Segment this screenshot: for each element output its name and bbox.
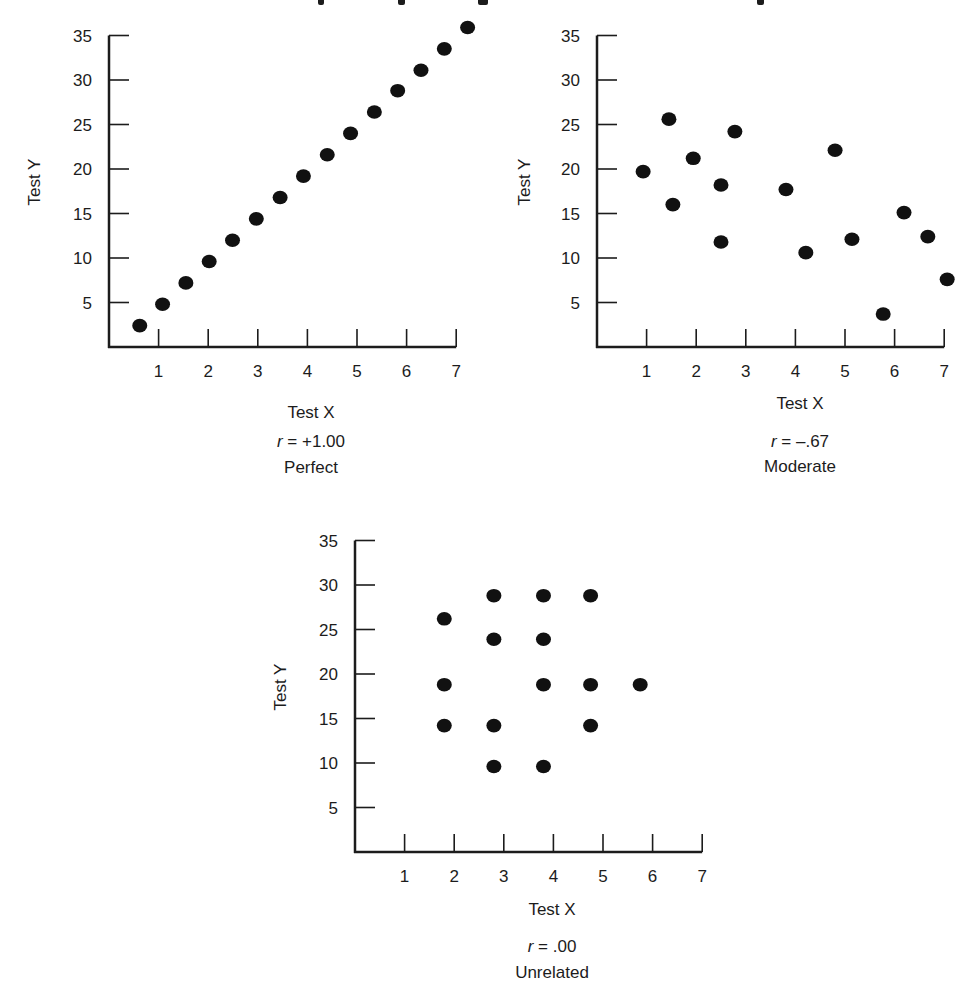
data-point xyxy=(536,678,551,692)
x-tick-label: 3 xyxy=(499,867,508,886)
data-point xyxy=(486,632,501,646)
y-axis-title: Test Y xyxy=(271,664,290,711)
data-point xyxy=(437,678,452,692)
x-tick-label: 2 xyxy=(449,867,458,886)
data-point xyxy=(536,760,551,774)
y-tick-label: 20 xyxy=(319,665,338,684)
x-tick-label: 5 xyxy=(598,867,607,886)
data-point xyxy=(486,589,501,603)
y-tick-label: 10 xyxy=(319,754,338,773)
data-point xyxy=(437,612,452,626)
data-point xyxy=(486,760,501,774)
data-points xyxy=(437,589,648,773)
data-point xyxy=(486,719,501,733)
x-axis-title: Test X xyxy=(528,900,575,919)
data-point xyxy=(583,719,598,733)
scatter-panel-unrelated: 5101520253035 1234567 Test Y Test X r = … xyxy=(0,0,971,987)
correlation-strength-label: Unrelated xyxy=(515,963,589,982)
y-tick-label: 25 xyxy=(319,621,338,640)
data-point xyxy=(583,678,598,692)
x-axis: 1234567 xyxy=(354,834,707,886)
data-point xyxy=(536,632,551,646)
y-tick-label: 15 xyxy=(319,710,338,729)
correlation-coefficient: r = .00 xyxy=(528,937,577,956)
data-point xyxy=(583,589,598,603)
x-tick-label: 4 xyxy=(549,867,558,886)
y-tick-label: 35 xyxy=(319,532,338,551)
y-tick-label: 5 xyxy=(329,799,338,818)
data-point xyxy=(633,678,648,692)
y-tick-label: 30 xyxy=(319,576,338,595)
x-tick-label: 1 xyxy=(400,867,409,886)
x-tick-label: 7 xyxy=(697,867,706,886)
x-tick-label: 6 xyxy=(648,867,657,886)
data-point xyxy=(437,719,452,733)
y-axis: 5101520253035 xyxy=(319,532,375,854)
data-point xyxy=(536,589,551,603)
